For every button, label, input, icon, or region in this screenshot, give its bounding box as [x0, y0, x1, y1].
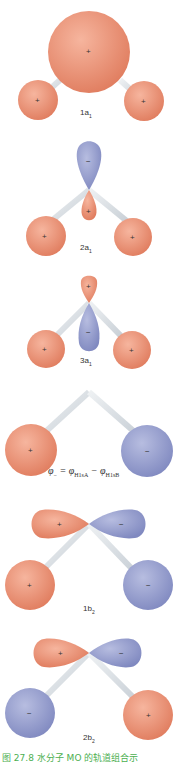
sign-label: +: [35, 96, 40, 105]
sign-label: −: [145, 447, 150, 456]
sign-label: −: [86, 328, 91, 337]
sign-label: −: [146, 581, 151, 590]
sign-label: +: [86, 207, 91, 216]
orbital-label-2b2: 2b2: [83, 733, 95, 744]
sign-label: +: [28, 446, 33, 455]
sign-label: +: [86, 47, 91, 56]
orbital-label-3a1: 3a1: [80, 356, 92, 367]
sign-label: +: [58, 649, 63, 658]
sign-label: +: [129, 346, 134, 355]
sign-label: −: [27, 709, 32, 718]
phi-minus-formula: φ− = φH1sA − φH1sB: [48, 465, 119, 478]
figure-caption: 图 27.8 水分子 MO 的轨道组合示: [2, 751, 138, 763]
sign-label: −: [119, 520, 124, 529]
sign-label: +: [57, 520, 62, 529]
sign-label: −: [119, 649, 124, 658]
sign-label: −: [86, 157, 91, 166]
orbital-label-2a1: 2a1: [80, 243, 92, 254]
sign-label: +: [42, 232, 47, 241]
sign-label: +: [86, 282, 91, 291]
sign-label: +: [141, 97, 146, 106]
orbital-1b2: [5, 510, 173, 610]
orbital-label-1b2: 1b2: [83, 604, 95, 615]
orbital-2b2: [5, 639, 173, 740]
orbital-label-1a1: 1a1: [80, 108, 92, 119]
sign-label: +: [27, 581, 32, 590]
sign-label: +: [42, 345, 47, 354]
sign-label: +: [146, 711, 151, 720]
sign-label: +: [130, 233, 135, 242]
